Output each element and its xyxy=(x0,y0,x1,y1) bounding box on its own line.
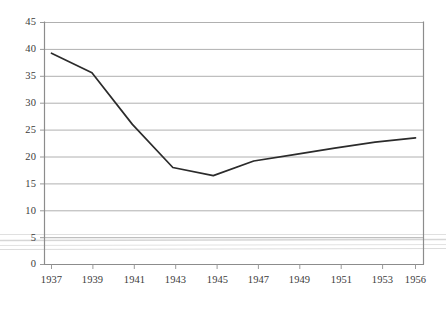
ytick-label-5: 5 xyxy=(18,233,36,244)
xtick-label-1947: 1947 xyxy=(238,275,279,286)
x-axis-ticks xyxy=(52,265,416,270)
gridlines-horizontal xyxy=(44,23,424,238)
xtick-label-1937: 1937 xyxy=(31,275,72,286)
ytick-label-35: 35 xyxy=(18,71,36,82)
xtick-label-1951: 1951 xyxy=(321,275,362,286)
xtick-label-1939: 1939 xyxy=(72,275,113,286)
y-axis-ticks xyxy=(40,23,44,265)
xtick-label-1943: 1943 xyxy=(155,275,196,286)
ytick-label-15: 15 xyxy=(18,179,36,190)
ytick-label-40: 40 xyxy=(18,44,36,55)
ytick-label-10: 10 xyxy=(18,206,36,217)
xtick-label-1956: 1956 xyxy=(395,275,436,286)
ytick-label-20: 20 xyxy=(18,152,36,163)
xtick-label-1941: 1941 xyxy=(114,275,155,286)
ytick-label-45: 45 xyxy=(18,17,36,28)
chart-canvas xyxy=(0,0,446,313)
xtick-label-1945: 1945 xyxy=(197,275,238,286)
line-chart: 45 40 35 30 25 20 15 10 5 0 1937 1939 19… xyxy=(0,0,446,313)
ytick-label-0: 0 xyxy=(18,259,36,270)
xtick-label-1949: 1949 xyxy=(279,275,320,286)
ytick-label-25: 25 xyxy=(18,125,36,136)
ytick-label-30: 30 xyxy=(18,98,36,109)
scan-artifact-lines xyxy=(0,235,446,250)
